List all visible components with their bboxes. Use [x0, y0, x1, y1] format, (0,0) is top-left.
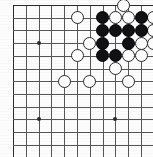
black-stone[interactable]: [135, 24, 148, 37]
white-stone[interactable]: [83, 75, 96, 88]
hoshi-star-point: [37, 117, 41, 121]
black-stone[interactable]: [122, 24, 135, 37]
grid-line-horizontal: [13, 119, 153, 120]
go-board[interactable]: [0, 0, 153, 157]
grid-line-horizontal: [13, 69, 153, 70]
white-stone[interactable]: [147, 24, 153, 37]
grid-line-horizontal: [13, 5, 153, 6]
white-stone[interactable]: [71, 49, 84, 62]
black-stone[interactable]: [96, 11, 109, 24]
white-stone[interactable]: [122, 75, 135, 88]
grid-line-horizontal: [13, 132, 153, 133]
white-stone[interactable]: [117, 0, 130, 12]
black-stone[interactable]: [109, 24, 122, 37]
white-stone[interactable]: [135, 37, 148, 50]
white-stone[interactable]: [122, 49, 135, 62]
white-stone[interactable]: [71, 11, 84, 24]
black-stone[interactable]: [96, 37, 109, 50]
black-stone[interactable]: [96, 24, 109, 37]
black-stone[interactable]: [96, 49, 109, 62]
white-stone[interactable]: [135, 49, 148, 62]
black-stone[interactable]: [109, 49, 122, 62]
hoshi-star-point: [113, 117, 117, 121]
white-stone[interactable]: [109, 62, 122, 75]
white-stone[interactable]: [147, 11, 153, 24]
white-stone[interactable]: [147, 37, 153, 50]
black-stone[interactable]: [122, 37, 135, 50]
grid-line-horizontal: [13, 107, 153, 108]
white-stone[interactable]: [122, 11, 135, 24]
hoshi-star-point: [37, 41, 41, 45]
white-stone[interactable]: [109, 11, 122, 24]
grid-line-horizontal: [13, 94, 153, 95]
white-stone[interactable]: [83, 37, 96, 50]
grid-line-horizontal: [13, 145, 153, 146]
white-stone[interactable]: [58, 75, 71, 88]
black-stone[interactable]: [135, 11, 148, 24]
